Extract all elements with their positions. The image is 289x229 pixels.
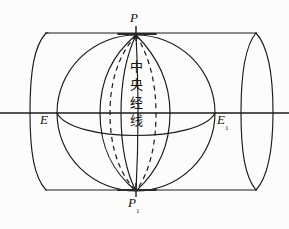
central-meridian-annotation: 中 央 经 线	[127, 58, 145, 130]
central-meridian-char-4: 线	[127, 112, 145, 130]
equator-left-label: E	[40, 113, 48, 126]
cylinder-right-rim-back	[241, 33, 256, 190]
south-pole-label-subscript: 1	[136, 207, 140, 215]
central-meridian-char-1: 中	[127, 58, 145, 76]
central-meridian-char-3: 经	[127, 94, 145, 112]
equator-right-label: E1	[217, 113, 228, 130]
equator-right-label-subscript: 1	[225, 124, 229, 132]
projection-figure: P P1 E E1 中 央 经 线	[0, 0, 289, 229]
cylinder-right-rim-front	[256, 33, 273, 190]
central-meridian-char-2: 央	[127, 76, 145, 94]
south-pole-label: P1	[128, 196, 139, 213]
cylinder-group	[30, 33, 273, 190]
north-pole-label: P	[130, 11, 138, 24]
